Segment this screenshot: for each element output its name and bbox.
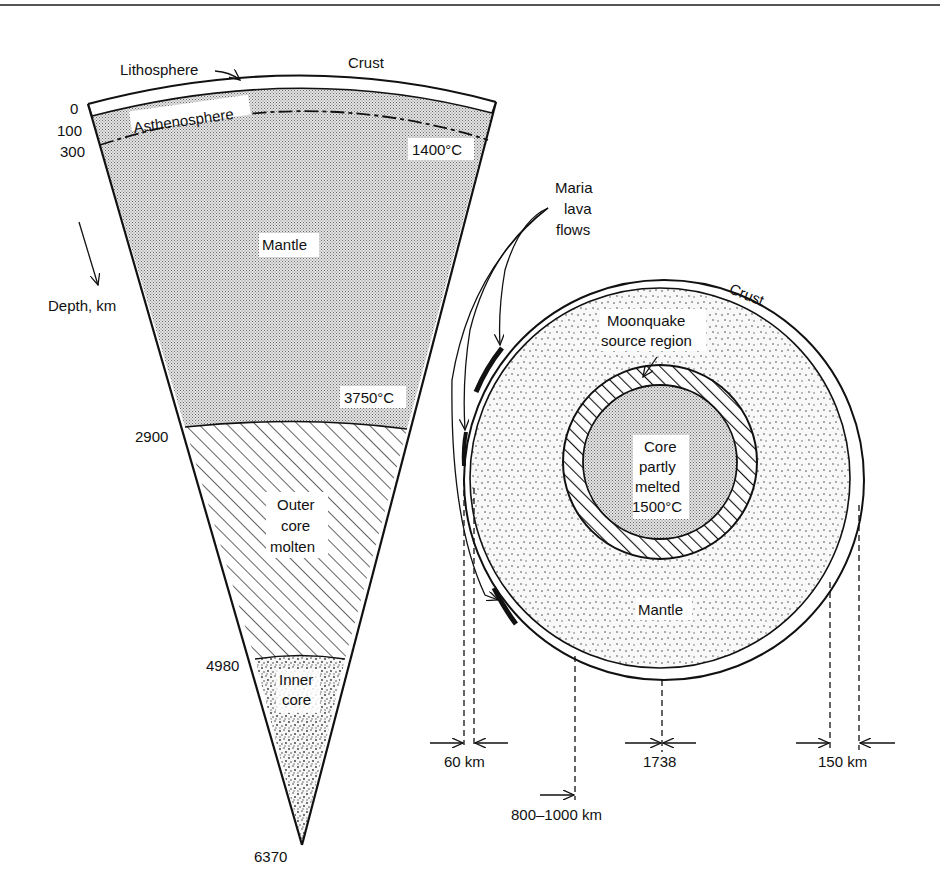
depth-4980: 4980: [206, 657, 239, 674]
dim-1738: 1738: [643, 753, 676, 770]
depth-2900: 2900: [135, 428, 168, 445]
temp-3750-label: 3750°C: [344, 389, 394, 406]
moonquake-label-2: source region: [601, 332, 692, 349]
crust-label: Crust: [348, 54, 385, 71]
depth-300: 300: [60, 143, 85, 160]
maria-label-1: Maria: [555, 179, 593, 196]
outer-core-label-2: core: [281, 517, 310, 534]
dim-800-1000km: 800–1000 km: [511, 806, 602, 823]
depth-axis-label: Depth, km: [48, 297, 116, 314]
temp-1400-label: 1400°C: [412, 141, 462, 158]
moon-mantle-label: Mantle: [638, 601, 683, 618]
dimension-labels: 60 km 1738 150 km 800–1000 km: [444, 753, 867, 823]
depth-0: 0: [70, 100, 78, 117]
dim-60km: 60 km: [444, 753, 485, 770]
maria-label-2: lava: [564, 200, 592, 217]
core-label-1: Core: [644, 438, 677, 455]
earth-moon-interior-diagram: Lithosphere Crust Asthenosphere 1400°C M…: [0, 0, 940, 872]
depth-100: 100: [57, 122, 82, 139]
core-label-4: 1500°C: [632, 498, 682, 515]
maria-lava-flow-middle: [464, 432, 466, 466]
core-label-2: partly: [639, 458, 676, 475]
maria-label-3: flows: [556, 221, 590, 238]
earth-wedge: [88, 75, 496, 845]
dim-150km: 150 km: [818, 753, 867, 770]
lithosphere-label: Lithosphere: [120, 61, 198, 78]
outer-core-label-3: molten: [270, 538, 315, 555]
inner-core-label-2: core: [282, 691, 311, 708]
depth-arrow: [79, 222, 98, 285]
core-label-3: melted: [635, 478, 680, 495]
inner-core-label-1: Inner: [279, 671, 313, 688]
depth-6370: 6370: [254, 848, 287, 865]
mantle-label: Mantle: [262, 236, 307, 253]
moonquake-label-1: Moonquake: [607, 312, 685, 329]
outer-core-label-1: Outer: [277, 496, 315, 513]
